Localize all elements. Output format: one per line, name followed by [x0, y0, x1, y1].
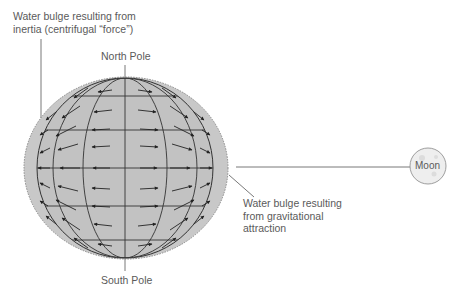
tide-diagram: [0, 0, 471, 300]
moon-label: Moon: [415, 160, 440, 173]
gravity-leader-line: [229, 175, 254, 197]
